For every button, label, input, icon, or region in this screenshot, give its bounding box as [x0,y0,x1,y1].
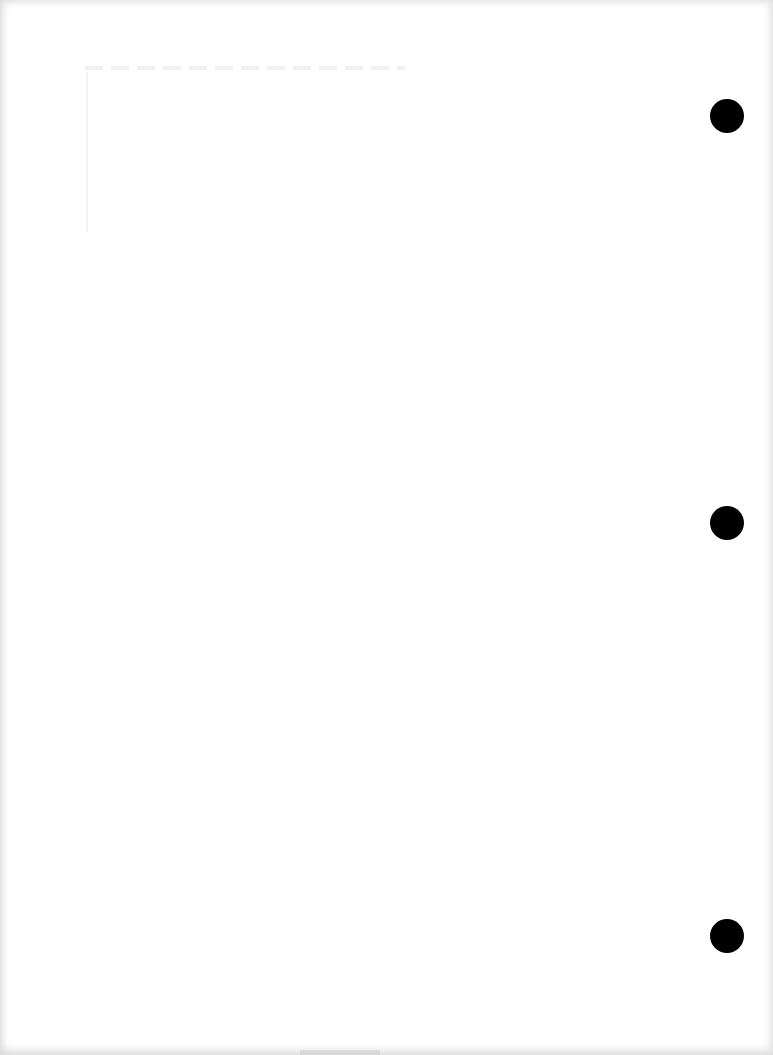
bleed-through-text [85,66,405,70]
punch-hole-top [710,99,744,133]
punch-hole-middle [710,506,744,540]
bleed-through-margin-line [86,72,88,232]
blank-page [0,0,773,1055]
punch-hole-bottom [710,919,744,953]
scan-edge-shadow [300,1050,380,1055]
